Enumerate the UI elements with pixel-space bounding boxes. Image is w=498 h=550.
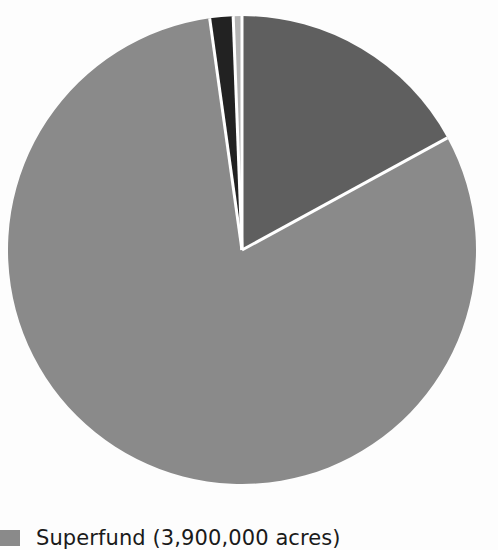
pie-chart: [0, 0, 498, 500]
legend-label-superfund: Superfund (3,900,000 acres): [36, 526, 341, 550]
legend-swatch-superfund: [0, 530, 20, 546]
chart-legend: Superfund (3,900,000 acres): [0, 526, 341, 550]
